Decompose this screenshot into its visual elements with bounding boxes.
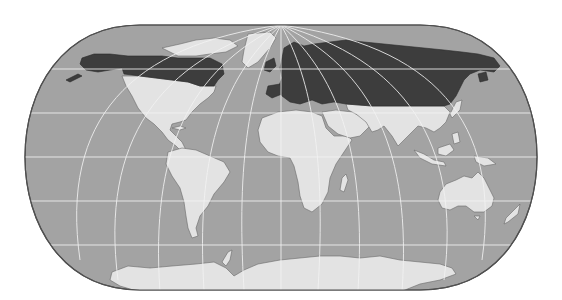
world-map xyxy=(0,0,562,300)
sakhalin-kuril xyxy=(478,72,488,82)
